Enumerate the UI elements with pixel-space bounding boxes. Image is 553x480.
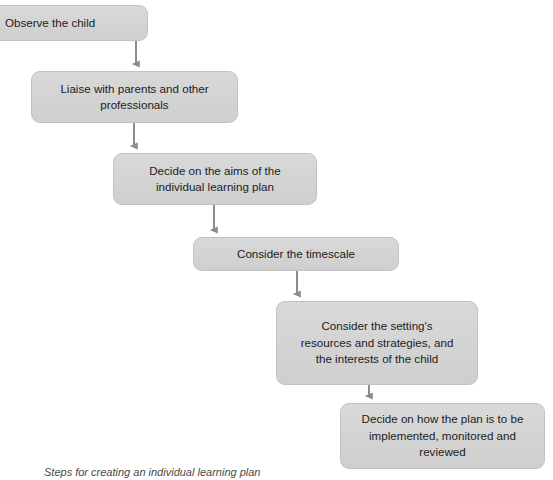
flow-node-label: Observe the child xyxy=(0,15,137,32)
figure-caption: Steps for creating an individual learnin… xyxy=(44,466,260,478)
flow-node-label: Decide on the aims of the individual lea… xyxy=(124,163,306,196)
flow-node-label: Decide on how the plan is to be implemen… xyxy=(351,411,534,461)
flow-node-liaise-with-parents[interactable]: Liaise with parents and other profession… xyxy=(31,71,238,123)
flow-node-consider-the-settings-resources[interactable]: Consider the setting's resources and str… xyxy=(276,301,478,385)
flow-node-label: Consider the setting's resources and str… xyxy=(287,318,467,368)
flow-node-label: Consider the timescale xyxy=(204,246,388,263)
flow-node-label: Liaise with parents and other profession… xyxy=(42,81,227,114)
flow-node-observe-the-child[interactable]: Observe the child xyxy=(0,5,148,41)
flow-node-consider-the-timescale[interactable]: Consider the timescale xyxy=(193,237,399,271)
flowchart-canvas: Observe the child Liaise with parents an… xyxy=(0,0,553,480)
flow-node-decide-on-the-aims[interactable]: Decide on the aims of the individual lea… xyxy=(113,153,317,205)
flow-node-decide-on-implementation[interactable]: Decide on how the plan is to be implemen… xyxy=(340,403,545,469)
